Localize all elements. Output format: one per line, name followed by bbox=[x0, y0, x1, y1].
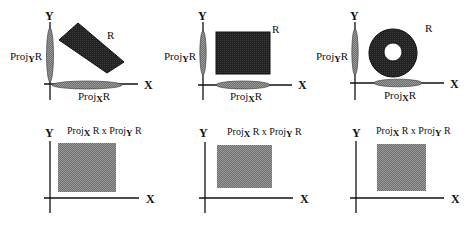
panel-bottom-1: Y X ProjX R x ProjY R bbox=[44, 125, 155, 213]
region-r-rect bbox=[216, 32, 270, 74]
proj-x-shadow bbox=[374, 79, 422, 87]
panel-bottom-2: Y X ProjX R x ProjY R bbox=[199, 126, 309, 213]
proj-y-shadow bbox=[47, 28, 54, 82]
region-r-annulus bbox=[369, 29, 417, 77]
region-label: R bbox=[272, 23, 280, 35]
proj-y-label: ProjYR bbox=[316, 50, 349, 64]
proj-x-label: ProjXR bbox=[230, 90, 263, 104]
proj-y-label: ProjYR bbox=[164, 50, 197, 64]
product-region bbox=[377, 144, 426, 191]
x-axis-label: X bbox=[146, 192, 155, 206]
proj-x-label: ProjXR bbox=[78, 90, 111, 104]
x-axis-label: X bbox=[300, 192, 309, 206]
y-axis-label: Y bbox=[199, 126, 208, 140]
product-label: ProjX R x ProjY R bbox=[67, 125, 142, 138]
product-label: ProjX R x ProjY R bbox=[227, 126, 302, 139]
projection-diagram: Y X R ProjYR ProjXR Y X R ProjYR ProjXR … bbox=[0, 0, 474, 230]
y-axis-label: Y bbox=[45, 126, 54, 140]
y-axis-label: Y bbox=[45, 9, 54, 23]
product-region bbox=[217, 145, 272, 188]
panel-bottom-3: Y X ProjX R x ProjY R bbox=[350, 125, 460, 213]
panel-top-3: Y X R ProjYR ProjXR bbox=[316, 9, 459, 103]
product-label: ProjX R x ProjY R bbox=[376, 125, 451, 138]
region-label: R bbox=[425, 22, 433, 34]
y-axis-label: Y bbox=[198, 9, 207, 23]
x-axis-label: X bbox=[144, 78, 153, 92]
panel-top-2: Y X R ProjYR ProjXR bbox=[164, 9, 307, 104]
proj-y-label: ProjYR bbox=[10, 50, 43, 64]
x-axis-label: X bbox=[451, 192, 460, 206]
region-label: R bbox=[107, 29, 115, 41]
y-axis-label: Y bbox=[350, 9, 359, 23]
y-axis-label: Y bbox=[352, 126, 361, 140]
proj-x-shadow bbox=[216, 81, 270, 89]
proj-x-label: ProjXR bbox=[384, 89, 417, 103]
x-axis-label: X bbox=[450, 77, 459, 91]
proj-y-shadow bbox=[352, 29, 358, 75]
proj-y-shadow bbox=[200, 31, 206, 75]
proj-x-shadow bbox=[52, 81, 122, 89]
panel-top-1: Y X R ProjYR ProjXR bbox=[10, 9, 153, 104]
x-axis-label: X bbox=[298, 78, 307, 92]
product-region bbox=[58, 143, 116, 192]
